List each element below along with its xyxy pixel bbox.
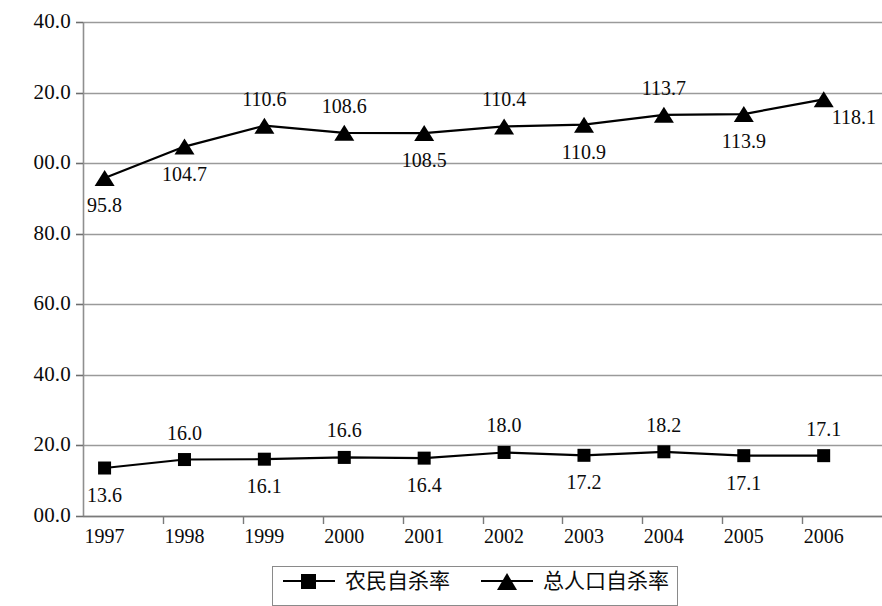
data-value-label: 108.5 (379, 150, 469, 170)
x-axis-tick-label: 2004 (619, 526, 709, 546)
data-point-marker (178, 453, 191, 466)
data-point-marker (737, 449, 750, 462)
chart-legend: 农民自杀率 总人口自杀率 (272, 566, 678, 606)
y-axis-tick-label: 40.0 (0, 364, 71, 385)
legend-item-farmer-suicide-rate: 农民自杀率 (283, 567, 450, 595)
x-axis-tick-label: 2000 (299, 526, 389, 546)
data-value-label: 16.4 (379, 475, 469, 495)
data-value-label: 17.1 (699, 473, 789, 493)
data-value-label: 18.2 (619, 415, 709, 435)
data-point-marker (418, 452, 431, 465)
x-axis-tick-label: 1999 (219, 526, 309, 546)
data-value-label: 108.6 (299, 96, 389, 116)
data-value-label: 113.7 (619, 78, 709, 98)
data-value-label: 13.6 (60, 485, 150, 505)
data-value-label: 110.6 (219, 89, 309, 109)
legend-item-total-population-suicide-rate: 总人口自杀率 (481, 567, 669, 595)
data-value-label: 16.0 (139, 423, 229, 443)
data-value-label: 16.1 (219, 476, 309, 496)
x-axis-tick-label: 2001 (379, 526, 469, 546)
legend-label-total-population-suicide-rate: 总人口自杀率 (533, 568, 669, 594)
y-axis-tick-label: 80.0 (0, 223, 71, 244)
y-axis-tick-label: 00.0 (0, 505, 71, 526)
data-value-label: 118.1 (832, 107, 882, 127)
data-point-marker (657, 445, 670, 458)
x-axis-tick-label: 2005 (699, 526, 789, 546)
data-value-label: 17.1 (779, 419, 869, 439)
y-axis-tick-label: 60.0 (0, 293, 71, 314)
data-value-label: 18.0 (459, 415, 549, 435)
data-point-marker (817, 449, 830, 462)
y-axis-ticks (76, 23, 83, 517)
data-value-label: 17.2 (539, 472, 629, 492)
data-value-label: 95.8 (60, 195, 150, 215)
y-axis-tick-label: 20.0 (0, 434, 71, 455)
x-axis-tick-label: 1997 (60, 526, 150, 546)
series-line (105, 452, 824, 468)
data-value-label: 110.9 (539, 142, 629, 162)
data-value-label: 16.6 (299, 420, 389, 440)
data-value-label: 113.9 (699, 131, 789, 151)
data-value-label: 110.4 (459, 89, 549, 109)
y-axis-tick-label: 00.0 (0, 152, 71, 173)
data-point-marker (338, 451, 351, 464)
x-axis-tick-label: 1998 (139, 526, 229, 546)
data-point-marker (258, 453, 271, 466)
data-point-marker (95, 170, 115, 186)
legend-key-triangle-icon (481, 568, 533, 594)
x-axis-tick-label: 2006 (779, 526, 869, 546)
data-point-marker (175, 139, 195, 155)
legend-label-farmer-suicide-rate: 农民自杀率 (335, 568, 450, 594)
data-point-marker (498, 446, 511, 459)
x-axis-tick-label: 2002 (459, 526, 549, 546)
data-point-marker (98, 462, 111, 475)
x-axis-tick-label: 2003 (539, 526, 629, 546)
y-axis-tick-label: 40.0 (0, 11, 71, 32)
y-axis-tick-label: 20.0 (0, 82, 71, 103)
legend-key-square-icon (283, 568, 335, 594)
data-point-marker (577, 449, 590, 462)
data-value-label: 104.7 (139, 164, 229, 184)
